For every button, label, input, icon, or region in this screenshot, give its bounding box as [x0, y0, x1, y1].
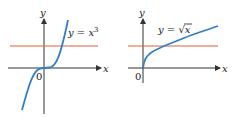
figure: y x 0 y = x3 y x 0 y = √x [0, 0, 237, 117]
x-axis-label: x [103, 63, 109, 74]
curve-label: y = √x [157, 24, 191, 35]
graph-cube: y x 0 y = x3 [8, 7, 109, 114]
curve-label: y = x3 [67, 26, 99, 38]
x-axis-label: x [222, 63, 228, 74]
y-axis-label: y [39, 7, 46, 18]
cube-curve [22, 20, 68, 110]
origin-label: 0 [36, 71, 42, 82]
graph-sqrt: y x 0 y = √x [128, 7, 228, 83]
origin-label: 0 [135, 71, 141, 82]
y-axis-label: y [138, 7, 145, 18]
